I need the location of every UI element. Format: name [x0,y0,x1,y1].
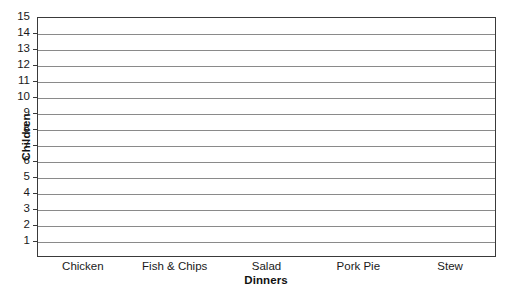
y-axis-tick-label: 11 [18,75,30,87]
gridline [38,34,495,35]
y-axis-tick-label: 2 [24,219,30,231]
gridline [38,130,495,131]
plot-area [37,17,496,257]
gridline [38,162,495,163]
gridline [38,98,495,99]
x-axis-tick-label: Pork Pie [337,259,380,273]
y-axis-tick-label: 8 [24,123,30,135]
bar-chart: Children 123456789101112131415 ChickenFi… [0,0,505,291]
y-axis-tick-labels: 123456789101112131415 [0,0,37,291]
y-axis-tick-label: 5 [24,171,30,183]
gridline [38,146,495,147]
y-axis-tick-label: 1 [24,235,30,247]
x-axis-tick-labels: ChickenFish & ChipsSaladPork PieStew [37,259,496,275]
gridline [38,194,495,195]
x-axis-tick-label: Stew [437,259,463,273]
y-axis-tick-label: 15 [17,11,30,23]
x-axis-tick-label: Salad [252,259,281,273]
y-axis-tick-label: 9 [24,107,30,119]
gridline [38,50,495,51]
y-axis-tick-label: 4 [24,187,30,199]
x-axis-title: Dinners [244,274,288,286]
y-axis-tick-label: 10 [17,91,30,103]
y-axis-tick-label: 7 [24,139,30,151]
gridline [38,242,495,243]
gridline [38,226,495,227]
gridline [38,210,495,211]
x-axis-tick-label: Fish & Chips [142,259,207,273]
y-axis-tick-label: 14 [17,27,30,39]
y-axis-tick-label: 13 [17,43,30,55]
gridline [38,178,495,179]
x-axis-tick-label: Chicken [62,259,104,273]
y-axis-tick-label: 12 [17,59,30,71]
y-axis-tick-label: 3 [24,203,30,215]
gridline [38,114,495,115]
gridline [38,82,495,83]
gridline [38,66,495,67]
y-axis-tick-label: 6 [24,155,30,167]
